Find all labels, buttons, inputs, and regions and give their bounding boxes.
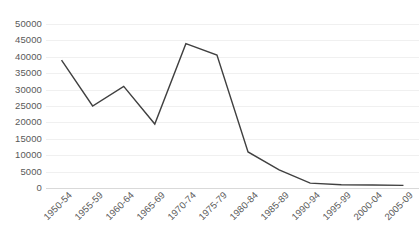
x-tick-label: 1965-69: [135, 190, 167, 222]
x-tick-label: 1990-94: [290, 190, 322, 222]
y-tick-label: 50000: [15, 19, 42, 29]
plot-area: [46, 24, 419, 188]
series-path-0: [62, 44, 404, 186]
x-tick-label: 1975-79: [197, 190, 229, 222]
y-tick-label: 5000: [20, 167, 42, 177]
y-tick-label: 0: [37, 183, 42, 193]
x-tick-label: 1950-54: [41, 190, 73, 222]
y-tick-label: 10000: [15, 150, 42, 160]
y-tick-label: 15000: [15, 134, 42, 144]
x-tick-label: 1960-64: [104, 190, 136, 222]
y-axis: 0500010000150002000025000300003500040000…: [0, 24, 42, 188]
x-tick-label: 2000-04: [352, 190, 384, 222]
x-tick-label: 1995-99: [321, 190, 353, 222]
y-tick-label: 25000: [15, 101, 42, 111]
series-line: [46, 24, 419, 188]
x-tick-label: 1955-59: [72, 190, 104, 222]
line-chart: 0500010000150002000025000300003500040000…: [0, 0, 419, 240]
y-tick-label: 20000: [15, 118, 42, 128]
y-tick-label: 40000: [15, 52, 42, 62]
x-tick-label: 1980-84: [228, 190, 260, 222]
gridline-0: [46, 188, 419, 189]
x-tick-label: 1985-89: [259, 190, 291, 222]
y-tick-label: 45000: [15, 36, 42, 46]
y-tick-label: 30000: [15, 85, 42, 95]
x-axis: 1950-541955-591960-641965-691970-741975-…: [46, 190, 419, 240]
y-tick-label: 35000: [15, 68, 42, 78]
x-tick-label: 2005-09: [383, 190, 415, 222]
x-tick-label: 1970-74: [166, 190, 198, 222]
